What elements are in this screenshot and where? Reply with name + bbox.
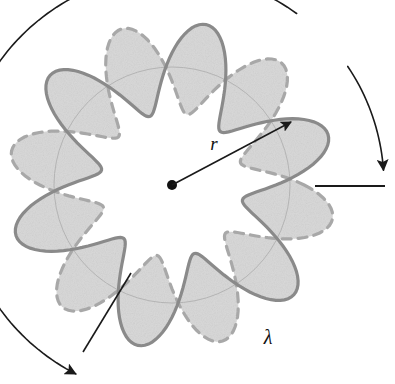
wavelength-label: λ [263,326,273,348]
standing-wave-diagram: r λ [0,0,395,384]
radius-label: r [210,133,218,154]
figure-canvas: r λ [0,0,395,384]
